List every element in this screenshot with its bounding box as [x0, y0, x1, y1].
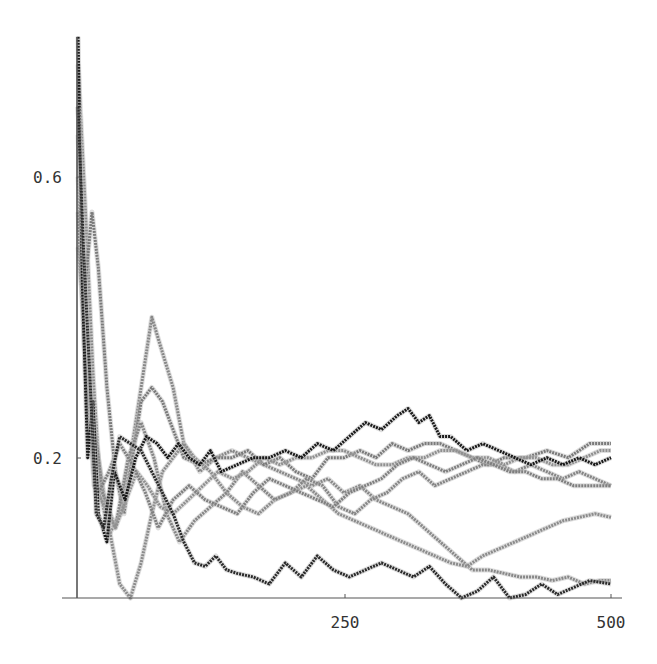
line-chart: 250 500 0.2 0.6 — [0, 0, 657, 664]
series-line-gray-3 — [78, 177, 611, 598]
series-layer — [78, 37, 611, 598]
y-tick-label-06: 0.6 — [33, 168, 62, 187]
x-tick-label-500: 500 — [597, 613, 626, 632]
x-tick-label-250: 250 — [331, 613, 360, 632]
y-tick-label-02: 0.2 — [33, 449, 62, 468]
